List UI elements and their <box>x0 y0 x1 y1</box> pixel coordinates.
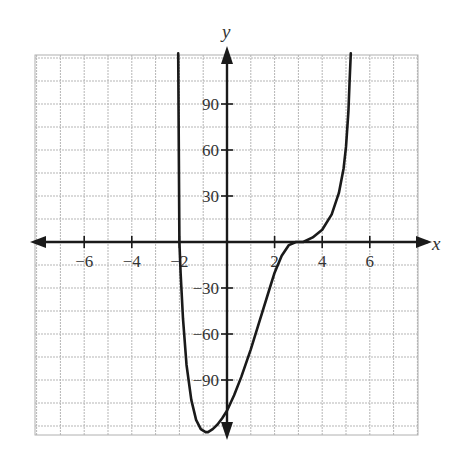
y-tick-label: −30 <box>192 279 219 298</box>
x-tick-label: −4 <box>123 252 142 271</box>
x-axis-right-arrow-icon <box>416 236 432 248</box>
y-tick-label: −90 <box>192 371 219 390</box>
x-axis-label: x <box>431 233 441 254</box>
function-graph: −6−4−2246906030−30−60−90 x y <box>0 0 468 467</box>
y-axis-bottom-arrow-icon <box>221 422 233 440</box>
x-tick-label: −6 <box>75 252 93 271</box>
axes <box>30 46 432 440</box>
y-tick-label: −60 <box>192 325 219 344</box>
y-tick-label: 60 <box>202 141 219 160</box>
x-tick-label: 6 <box>366 252 375 271</box>
x-tick-label: 4 <box>318 252 327 271</box>
y-tick-label: 30 <box>202 187 219 206</box>
x-axis-left-arrow-icon <box>30 236 46 248</box>
y-axis-label: y <box>220 21 231 42</box>
y-tick-label: 90 <box>202 95 219 114</box>
